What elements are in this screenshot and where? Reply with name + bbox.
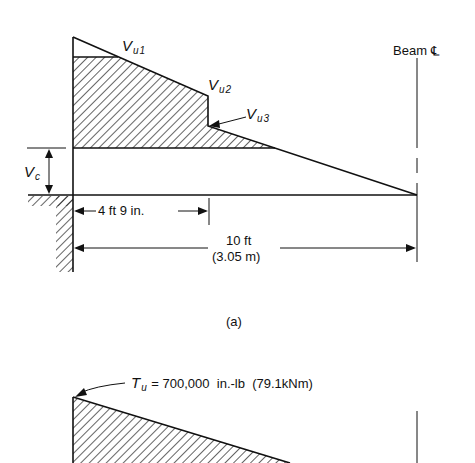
dimension-3-05m: (3.05 m): [212, 250, 260, 263]
beam-text: Beam: [393, 43, 427, 58]
shear-torsion-diagram: [0, 0, 475, 463]
tu-subscript: u: [141, 382, 148, 393]
vu3-subscript: u3: [257, 113, 270, 124]
dimension-4ft9in: 4 ft 9 in.: [98, 204, 144, 217]
tu-symbol: T: [131, 374, 140, 391]
panel-a: [27, 37, 417, 272]
vu1-subscript: u1: [133, 45, 146, 56]
hatched-shear-region: [73, 57, 275, 148]
vu2-symbol: V: [208, 76, 218, 93]
label-vc: Vc: [24, 164, 41, 179]
centerline-symbol: ℄: [431, 43, 439, 58]
label-vu2: Vu2: [208, 77, 232, 92]
caption-a: (a): [226, 315, 242, 328]
vu1-symbol: V: [122, 37, 132, 54]
label-vu1: Vu1: [122, 38, 146, 53]
torque-value: = 700,000 in.-lb (79.1kNm): [151, 376, 313, 391]
label-torque: Tu = 700,000 in.-lb (79.1kNm): [131, 375, 313, 390]
label-vu3: Vu3: [246, 106, 270, 121]
vu3-symbol: V: [246, 105, 256, 122]
panel-b: [73, 383, 417, 463]
vc-symbol: V: [24, 163, 34, 180]
vu2-subscript: u2: [219, 84, 232, 95]
dimension-10ft: 10 ft: [226, 234, 251, 247]
label-beam-centerline: Beam ℄: [393, 44, 439, 57]
vc-subscript: c: [35, 171, 41, 182]
